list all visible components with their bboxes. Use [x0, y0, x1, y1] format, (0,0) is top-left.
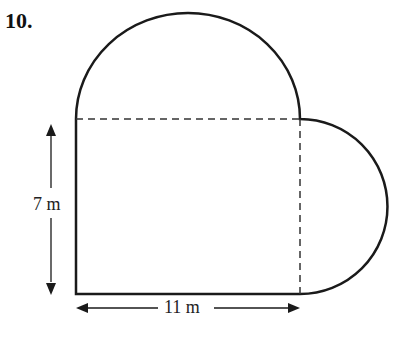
- shape-outline: [76, 13, 387, 294]
- composite-shape-diagram: [0, 0, 412, 343]
- height-label: 7 m: [33, 194, 61, 215]
- width-label: 11 m: [164, 297, 200, 318]
